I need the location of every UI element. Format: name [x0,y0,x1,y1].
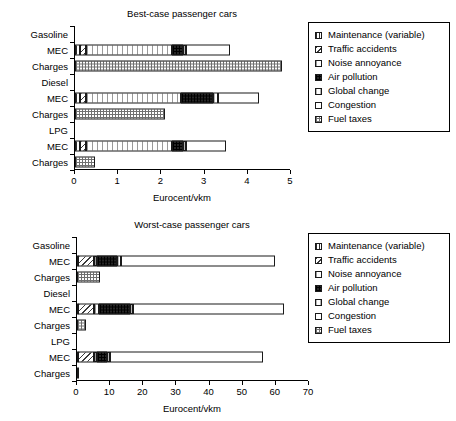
legend-item[interactable]: Air pollution [315,281,443,295]
legend-item[interactable]: Noise annoyance [315,56,443,70]
bar-segment [86,93,181,104]
x-axis-tick [142,381,143,385]
legend-swatch-icon [315,116,322,123]
legend-item[interactable]: Congestion [315,309,443,323]
legend-item[interactable]: Traffic accidents [315,42,443,56]
x-axis-tick [247,170,248,174]
legend-swatch-icon [315,271,322,278]
table-row[interactable] [75,109,165,120]
legend-item[interactable]: Air pollution [315,70,443,84]
bar-segment [77,272,100,283]
y-axis-label: MEC [47,45,68,56]
bar-segment [99,304,130,315]
x-axis-tick [308,381,309,385]
y-axis-tick [72,253,76,254]
legend-swatch-icon [315,102,322,109]
table-row[interactable] [77,368,79,379]
x-axis-caption: Eurocent/vkm [153,192,211,203]
table-row[interactable] [75,45,230,56]
x-axis-tick-label: 40 [203,386,214,397]
table-row[interactable] [77,272,100,283]
x-axis-tick-label: 2 [158,175,163,186]
bar-segment [97,352,107,363]
legend-item-label: Congestion [328,311,376,321]
chart-panel-worst-case: Worst-case passenger carsGasolineMECChar… [0,211,456,421]
y-axis-tick [72,285,76,286]
bar-segment [78,304,93,315]
bar-segment [78,352,93,363]
legend-item[interactable]: Congestion [315,98,443,112]
legend-item[interactable]: Global change [315,295,443,309]
bar-segment [97,256,118,267]
table-row[interactable] [77,352,263,363]
y-axis-tick [70,26,74,27]
y-axis-tick [72,237,76,238]
legend-item-label: Noise annoyance [328,269,401,279]
x-axis-tick-label: 60 [270,386,281,397]
y-axis-tick [72,349,76,350]
legend-item-label: Traffic accidents [328,44,397,54]
bar-segment [86,141,172,152]
table-row[interactable] [75,157,95,168]
x-axis-tick [242,381,243,385]
y-axis-label: MEC [49,352,70,363]
y-axis-label: Charges [32,61,68,72]
legend-swatch-icon [315,285,322,292]
legend-item[interactable]: Fuel taxes [315,112,443,126]
y-axis-label: Charges [34,272,70,283]
y-axis-label: MEC [47,141,68,152]
x-axis-tick-label: 30 [170,386,181,397]
y-axis-label: MEC [47,93,68,104]
y-axis-tick [70,74,74,75]
bar-segment [181,93,213,104]
chart-panel-best-case: Best-case passenger carsGasolineMECCharg… [0,0,456,210]
y-axis-tick [70,106,74,107]
x-axis-tick [204,170,205,174]
x-axis-tick [209,381,210,385]
y-axis-label: Diesel [42,77,68,88]
y-axis-tick [72,301,76,302]
bar-segment [75,109,165,120]
table-row[interactable] [77,320,86,331]
bar-segment [75,61,282,72]
table-row[interactable] [77,304,284,315]
legend-item[interactable]: Fuel taxes [315,323,443,337]
y-axis-label: MEC [49,304,70,315]
x-axis-tick-label: 70 [303,386,314,397]
x-axis-tick-label: 3 [201,175,206,186]
legend-swatch-icon [315,88,322,95]
table-row[interactable] [75,61,282,72]
legend-item[interactable]: Maintenance (variable) [315,28,443,42]
y-axis-tick [72,269,76,270]
legend-item-label: Air pollution [328,72,378,82]
bar-segment [77,320,86,331]
y-axis-tick [72,333,76,334]
legend-item[interactable]: Global change [315,84,443,98]
legend-item-label: Maintenance (variable) [328,30,425,40]
legend-swatch-icon [315,299,322,306]
legend-item-label: Global change [328,86,389,96]
legend-swatch-icon [315,327,322,334]
x-axis-tick [117,170,118,174]
legend-swatch-icon [315,257,322,264]
bar-segment [133,304,284,315]
bar-segment [78,256,93,267]
y-axis-tick [70,42,74,43]
x-axis-tick-label: 1 [115,175,120,186]
legend-item[interactable]: Traffic accidents [315,253,443,267]
table-row[interactable] [75,93,254,104]
x-axis-tick [160,170,161,174]
table-row[interactable] [75,141,226,152]
legend-item[interactable]: Noise annoyance [315,267,443,281]
legend-item-label: Traffic accidents [328,255,397,265]
legend-item[interactable]: Maintenance (variable) [315,239,443,253]
legend-swatch-icon [315,243,322,250]
y-axis-label: LPG [49,125,68,136]
bar-segment [172,45,183,56]
y-axis-label: Gasoline [33,240,71,251]
x-axis-tick-label: 4 [244,175,249,186]
y-axis-tick [70,154,74,155]
table-row[interactable] [77,256,275,267]
bar-segment [121,256,275,267]
x-axis-tick-label: 50 [236,386,247,397]
